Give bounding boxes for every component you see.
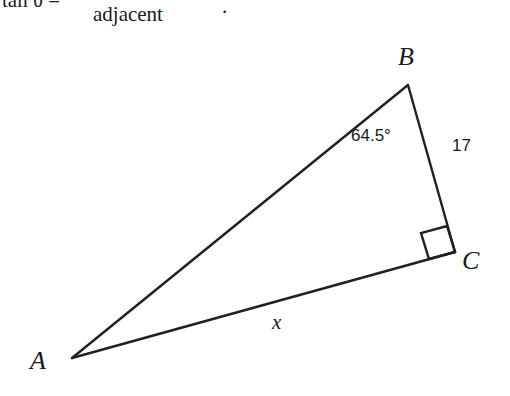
triangle-drawing bbox=[0, 0, 510, 396]
trigonometry-figure-page: tan θ = adjacent . B C A 64.5° 17 x bbox=[0, 0, 510, 396]
vertex-label-b: B bbox=[398, 44, 414, 70]
vertex-label-c: C bbox=[462, 248, 479, 274]
side-ac-line bbox=[72, 252, 455, 358]
angle-label-b: 64.5° bbox=[351, 127, 391, 144]
side-length-label-bc: 17 bbox=[452, 137, 471, 154]
side-length-label-ac: x bbox=[272, 312, 281, 333]
vertex-label-a: A bbox=[30, 348, 46, 374]
